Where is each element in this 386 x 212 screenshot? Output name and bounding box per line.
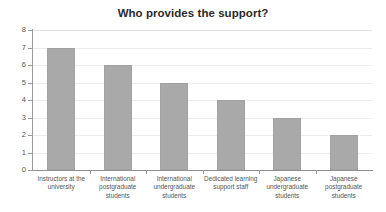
y-axis-tick-label: 0 (4, 166, 26, 174)
gridline (33, 135, 372, 136)
y-axis-tick (28, 135, 32, 136)
y-axis-tick-label: 3 (4, 114, 26, 122)
y-axis-tick (28, 170, 32, 171)
gridline (33, 118, 372, 119)
y-axis-tick (28, 100, 32, 101)
y-axis-tick-label: 4 (4, 96, 26, 104)
gridline (33, 153, 372, 154)
y-axis-tick (28, 118, 32, 119)
gridline (33, 48, 372, 49)
x-axis-category-label: Instructors at the university (34, 175, 89, 192)
gridline (33, 100, 372, 101)
y-axis-tick-label: 6 (4, 61, 26, 69)
y-axis-tick (28, 30, 32, 31)
gridline (33, 65, 372, 66)
x-axis-category-label: Dedicated learning support staff (204, 175, 259, 192)
x-axis-tick (203, 170, 204, 174)
bar (217, 100, 245, 170)
y-axis-tick-label: 2 (4, 131, 26, 139)
y-axis-tick (28, 83, 32, 84)
bar (47, 48, 75, 171)
x-axis-category-label: International postgraduate students (91, 175, 146, 200)
y-axis-tick-label: 7 (4, 44, 26, 52)
y-axis-tick-labels: 012345678 (0, 0, 26, 212)
y-axis-tick (28, 153, 32, 154)
x-axis-tick (146, 170, 147, 174)
y-axis-tick (28, 65, 32, 66)
bar (273, 118, 301, 171)
bar-chart: Who provides the support? 012345678 Inst… (0, 0, 386, 212)
x-axis-tick (259, 170, 260, 174)
x-axis-category-label: Japanese undergraduate students (260, 175, 315, 200)
x-axis-category-label: Japanese postgraduate students (317, 175, 372, 200)
bar (104, 65, 132, 170)
x-axis-tick (90, 170, 91, 174)
chart-title: Who provides the support? (0, 7, 386, 19)
x-axis-category-labels: Instructors at the universityInternation… (33, 175, 372, 211)
x-axis-tick (316, 170, 317, 174)
y-axis-tick-label: 1 (4, 149, 26, 157)
bar (160, 83, 188, 171)
plot-area (33, 30, 372, 170)
y-axis-tick-label: 8 (4, 26, 26, 34)
y-axis-tick-label: 5 (4, 79, 26, 87)
x-axis-category-label: International undergraduate students (147, 175, 202, 200)
bar (330, 135, 358, 170)
y-axis-tick (28, 48, 32, 49)
gridline (33, 30, 372, 31)
gridline (33, 83, 372, 84)
